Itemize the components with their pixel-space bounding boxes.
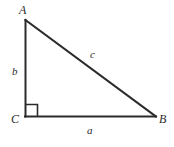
right-angle-marker-icon (26, 105, 38, 117)
vertex-label-c: C (11, 113, 19, 125)
triangle-side-c-line (26, 20, 157, 117)
vertex-label-a: A (19, 4, 26, 16)
vertex-label-b: B (159, 113, 166, 125)
geometry-figure: A B C a b c (0, 0, 174, 147)
side-label-b: b (12, 66, 18, 77)
side-label-a: a (87, 125, 93, 136)
side-label-c: c (90, 49, 95, 60)
